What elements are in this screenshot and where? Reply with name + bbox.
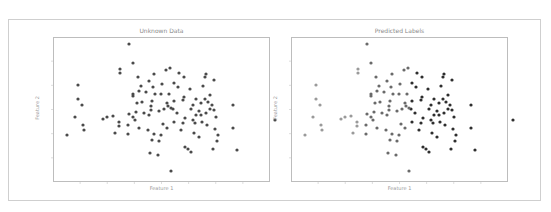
data-point [80,103,83,106]
data-point [127,42,130,45]
data-point [182,75,185,78]
data-point [397,92,400,95]
data-point [511,118,514,121]
data-point [369,94,372,97]
data-point [355,124,358,127]
data-point [405,92,408,95]
data-point [410,99,413,102]
data-point [400,107,403,110]
data-point [439,84,442,87]
data-point [419,98,422,101]
data-point [454,133,457,136]
data-point [165,101,168,104]
data-point [208,93,211,96]
data-point [414,85,417,88]
data-point [159,133,162,136]
data-point [76,83,79,86]
data-point [167,92,170,95]
data-point [385,113,388,116]
data-point [385,79,388,82]
data-point [189,150,192,153]
data-point [449,147,452,150]
data-point [157,109,160,112]
data-point [137,126,140,129]
data-point [208,107,211,110]
data-point [390,132,393,135]
data-point [197,109,200,112]
data-point [387,104,390,107]
data-point [150,138,153,141]
data-point [369,115,372,118]
data-point [371,118,374,121]
data-point [410,120,413,123]
data-point [417,128,420,131]
data-point [153,92,156,95]
data-point [407,169,410,172]
data-point [181,98,184,101]
data-point [395,139,398,142]
data-point [406,66,409,69]
data-point [182,95,185,98]
data-point [148,151,151,154]
data-point [160,82,163,85]
data-point [382,90,385,93]
data-point [443,123,446,126]
data-point [339,117,342,120]
data-point [403,126,406,129]
data-point [204,111,207,114]
data-point [176,85,179,88]
data-point [179,128,182,131]
data-point [386,151,389,154]
data-point [216,133,219,136]
data-point [206,100,209,103]
data-point [136,75,139,78]
data-point [142,111,145,114]
data-point [311,115,314,118]
data-point [191,103,194,106]
data-point [144,90,147,93]
data-point [172,99,175,102]
data-point [469,126,472,129]
data-point [191,118,194,121]
data-point [419,121,422,124]
data-point [204,72,207,75]
data-point [81,123,84,126]
data-point [162,107,165,110]
data-point [384,128,387,131]
data-point [427,107,430,110]
data-point [197,135,200,138]
data-point [380,111,383,114]
data-point [473,148,476,151]
data-point [415,71,418,74]
data-point [146,128,149,131]
data-point [127,112,130,115]
data-point [212,78,215,81]
data-point [391,92,394,95]
data-point [151,85,154,88]
y-axis-label: Feature 2 [272,96,278,120]
data-point [404,104,407,107]
data-point [369,61,372,64]
data-point [118,71,121,74]
data-point [183,116,186,119]
panel-unknown-data: Unknown Data Feature 1 Feature 2 [53,37,270,182]
data-point [356,67,359,70]
data-point [389,85,392,88]
data-point [137,89,140,92]
data-point [101,117,104,120]
data-point [152,72,155,75]
data-point [199,113,202,116]
data-point [231,126,234,129]
data-point [111,114,114,117]
data-point [82,128,85,131]
data-point [150,99,153,102]
data-point [157,139,160,142]
data-point [394,153,397,156]
scatter-points [291,37,508,182]
data-point [365,42,368,45]
data-point [177,71,180,74]
data-point [453,139,456,142]
data-point [152,132,155,135]
data-point [193,121,196,124]
data-point [210,103,213,106]
